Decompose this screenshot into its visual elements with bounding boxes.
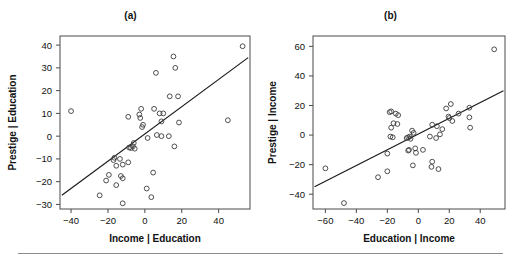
y-tick-label: 20 bbox=[41, 85, 52, 96]
data-point bbox=[385, 169, 390, 174]
data-point bbox=[410, 163, 415, 168]
data-point bbox=[428, 134, 433, 139]
data-point bbox=[114, 163, 119, 168]
data-layer bbox=[62, 44, 248, 206]
y-tick-label: 40 bbox=[41, 40, 52, 51]
data-point bbox=[126, 114, 131, 119]
data-point bbox=[436, 167, 441, 172]
panel-a-plot: −40−2002040−30−20−10010203040Income | Ed… bbox=[0, 0, 261, 250]
x-tick-label: −20 bbox=[100, 215, 116, 226]
data-point bbox=[414, 150, 419, 155]
y-axis-title: Prestige | Education bbox=[7, 74, 18, 170]
data-point bbox=[151, 170, 156, 175]
data-point bbox=[171, 54, 176, 59]
y-tick-label: −20 bbox=[289, 159, 305, 170]
data-point bbox=[376, 175, 381, 180]
data-point bbox=[120, 201, 125, 206]
panel-b: (b) −60−40−2002040−40−200204060Education… bbox=[260, 0, 521, 250]
x-tick-label: 20 bbox=[444, 215, 455, 226]
data-point bbox=[154, 133, 159, 138]
y-tick-label: −40 bbox=[289, 189, 305, 200]
data-point bbox=[97, 193, 102, 198]
data-point bbox=[159, 134, 164, 139]
data-point bbox=[434, 136, 439, 141]
plot-frame bbox=[313, 36, 505, 209]
y-tick-label: 0 bbox=[300, 129, 305, 140]
x-tick-label: −60 bbox=[317, 215, 333, 226]
data-point bbox=[166, 134, 171, 139]
data-point bbox=[114, 183, 119, 188]
data-point bbox=[492, 47, 497, 52]
data-point bbox=[444, 106, 449, 111]
data-point bbox=[448, 102, 453, 107]
data-point bbox=[430, 159, 435, 164]
data-point bbox=[176, 94, 181, 99]
footer-divider-rule bbox=[18, 253, 503, 254]
data-point bbox=[120, 162, 125, 167]
data-point bbox=[104, 178, 109, 183]
data-point bbox=[438, 132, 443, 137]
x-axis-title: Income | Education bbox=[109, 233, 201, 244]
y-axis-title: Prestige | Income bbox=[267, 81, 278, 164]
x-tick-label: 20 bbox=[176, 215, 187, 226]
y-tick-label: 60 bbox=[294, 41, 305, 52]
x-tick-label: 0 bbox=[142, 215, 147, 226]
data-layer bbox=[315, 47, 504, 206]
y-tick-label: 10 bbox=[41, 108, 52, 119]
data-point bbox=[149, 195, 154, 200]
data-point bbox=[126, 160, 131, 165]
data-point bbox=[145, 136, 150, 141]
data-point bbox=[429, 164, 434, 169]
y-tick-label: −10 bbox=[36, 153, 52, 164]
y-tick-label: 0 bbox=[47, 131, 52, 142]
plot-frame bbox=[60, 36, 250, 209]
data-point bbox=[240, 44, 245, 49]
y-tick-label: −20 bbox=[36, 176, 52, 187]
y-tick-label: 40 bbox=[294, 70, 305, 81]
data-point bbox=[173, 65, 178, 70]
data-point bbox=[172, 144, 177, 149]
data-point bbox=[144, 186, 149, 191]
x-tick-label: 0 bbox=[416, 215, 421, 226]
data-point bbox=[342, 201, 347, 206]
data-point bbox=[387, 110, 392, 115]
data-point bbox=[467, 115, 472, 120]
data-point bbox=[139, 106, 144, 111]
x-tick-label: −40 bbox=[63, 215, 79, 226]
y-tick-label: 20 bbox=[294, 100, 305, 111]
data-point bbox=[118, 157, 123, 162]
data-point bbox=[167, 94, 172, 99]
data-point bbox=[154, 70, 159, 75]
data-point bbox=[225, 118, 230, 123]
panel-b-plot: −60−40−2002040−40−200204060Education | I… bbox=[260, 0, 521, 250]
data-point bbox=[385, 151, 390, 156]
data-point bbox=[389, 125, 394, 130]
x-tick-label: 40 bbox=[475, 215, 486, 226]
data-point bbox=[440, 127, 445, 132]
y-tick-label: 30 bbox=[41, 62, 52, 73]
data-point bbox=[152, 106, 157, 111]
x-tick-label: −40 bbox=[348, 215, 364, 226]
added-variable-plot-figure: (a) −40−2002040−30−20−10010203040Income … bbox=[0, 0, 521, 262]
y-tick-label: −30 bbox=[36, 199, 52, 210]
data-point bbox=[323, 166, 328, 171]
x-tick-label: −20 bbox=[379, 215, 395, 226]
panel-a: (a) −40−2002040−30−20−10010203040Income … bbox=[0, 0, 261, 250]
data-point bbox=[413, 146, 418, 151]
data-point bbox=[177, 120, 182, 125]
data-point bbox=[421, 147, 426, 152]
data-point bbox=[450, 119, 455, 124]
data-point bbox=[468, 125, 473, 130]
x-axis-title: Education | Income bbox=[363, 233, 455, 244]
data-point bbox=[69, 109, 74, 114]
x-tick-label: 40 bbox=[213, 215, 224, 226]
data-point bbox=[106, 172, 111, 177]
